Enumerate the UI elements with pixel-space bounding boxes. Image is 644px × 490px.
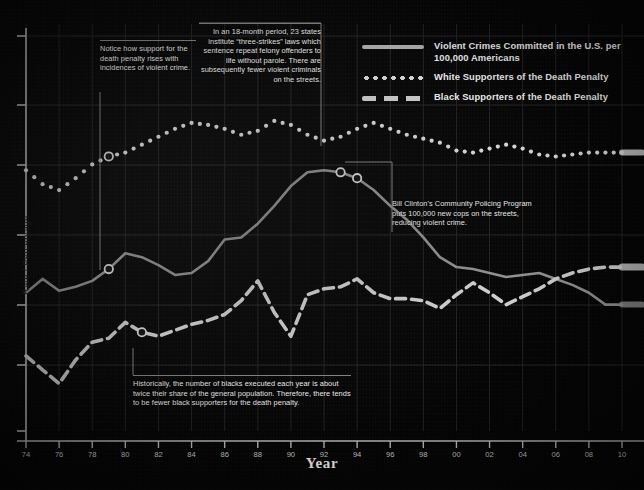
legend-label-violent-crimes: Violent Crimes Committed in the U.S. per… — [434, 40, 632, 65]
x-tick-80: 80 — [121, 450, 129, 459]
leader-support-white-marker — [105, 152, 113, 160]
x-tick-74: 74 — [22, 450, 30, 459]
x-tick-06: 06 — [552, 450, 560, 459]
x-tick-96: 96 — [386, 450, 394, 459]
legend-item-black-supporters[interactable]: Black Supporters of the Death Penalty — [362, 91, 632, 105]
legend-label-white-supporters: White Supporters of the Death Penalty — [434, 71, 609, 83]
annotation-three-strikes-text: In an 18-month period, 23 states institu… — [201, 27, 321, 84]
annotation-black-executions-note: Historically, the number of blacks execu… — [133, 375, 351, 408]
x-tick-82: 82 — [154, 450, 162, 459]
x-tick-08: 08 — [585, 450, 593, 459]
leader-black-marker — [138, 328, 146, 336]
leader-clinton — [345, 162, 392, 232]
chart-legend: Violent Crimes Committed in the U.S. per… — [362, 40, 632, 111]
x-tick-00: 00 — [452, 450, 460, 459]
x-tick-76: 76 — [55, 450, 63, 459]
legend-label-black-supporters: Black Supporters of the Death Penalty — [434, 91, 608, 103]
x-tick-88: 88 — [254, 450, 262, 459]
x-tick-86: 86 — [220, 450, 228, 459]
leader-three-strikes-marker — [336, 168, 344, 176]
x-tick-92: 92 — [320, 450, 328, 459]
chart-canvas: Notice how support for the death penalty… — [0, 0, 644, 490]
annotation-support-text: Notice how support for the death penalty… — [100, 44, 190, 72]
x-tick-10: 10 — [618, 450, 626, 459]
dotted-line-key — [362, 71, 424, 85]
legend-item-violent-crimes[interactable]: Violent Crimes Committed in the U.S. per… — [362, 40, 632, 65]
annotation-three-strikes-note: In an 18-month period, 23 states institu… — [199, 23, 321, 85]
x-tick-98: 98 — [419, 450, 427, 459]
x-tick-84: 84 — [187, 450, 195, 459]
annotation-black-executions-text: Historically, the number of blacks execu… — [133, 379, 351, 407]
leader-clinton-marker — [353, 174, 361, 182]
solid-line-key — [362, 40, 424, 54]
y-axis-title: Rate / Percentage — [21, 185, 31, 325]
annotation-clinton-text: Bill Clinton's Community Policing Progra… — [392, 199, 532, 227]
x-tick-04: 04 — [518, 450, 526, 459]
annotation-support-note: Notice how support for the death penalty… — [100, 40, 196, 73]
annotation-clinton-note: Bill Clinton's Community Policing Progra… — [392, 196, 540, 228]
x-tick-78: 78 — [88, 450, 96, 459]
x-tick-94: 94 — [353, 450, 361, 459]
legend-item-white-supporters[interactable]: White Supporters of the Death Penalty — [362, 71, 632, 85]
x-tick-90: 90 — [287, 450, 295, 459]
leader-support-crime-marker — [105, 265, 113, 273]
series-layer — [24, 119, 642, 384]
x-tick-02: 02 — [485, 450, 493, 459]
dashed-line-key — [362, 91, 424, 105]
